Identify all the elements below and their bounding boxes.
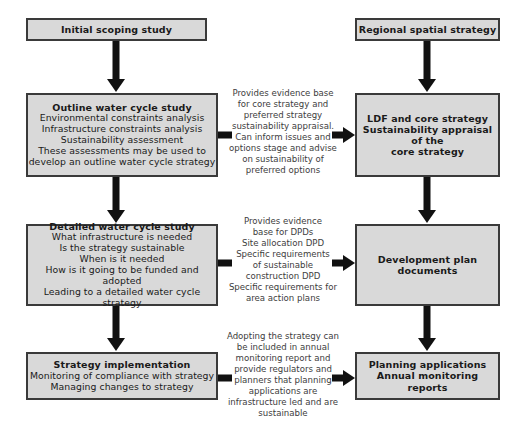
node-title: Strategy implementation: [54, 359, 191, 370]
note-line: area action plans: [226, 293, 340, 304]
note-line: monitoring report and: [222, 353, 344, 364]
node-title: Initial scoping study: [61, 24, 172, 35]
node-line: core strategy: [391, 146, 464, 157]
node-line: Leading to a detailed water cycle strate…: [28, 287, 216, 309]
note-line: be included in annual: [222, 342, 344, 353]
note-line: of sustainable: [226, 260, 340, 271]
note-line: for core strategy and: [226, 99, 340, 110]
node-ldf-and-core-strategy[interactable]: LDF and core strategy Sustainability app…: [355, 93, 500, 177]
note-line: sustainable: [222, 408, 344, 419]
node-title: Planning applications: [369, 359, 487, 370]
node-line: Annual monitoring reports: [357, 370, 498, 392]
node-title: Regional spatial strategy: [359, 24, 497, 35]
note-core-strategy: Provides evidence base for core strategy…: [226, 88, 340, 176]
note-line: Site allocation DPD: [226, 238, 340, 249]
note-line: infrastructure led and are: [222, 397, 344, 408]
node-initial-scoping-study[interactable]: Initial scoping study: [26, 18, 207, 41]
note-line: Provides evidence: [226, 216, 340, 227]
note-line: Adopting the strategy can: [222, 331, 344, 342]
flowchart-canvas: Initial scoping study Outline water cycl…: [0, 0, 526, 434]
node-detailed-water-cycle-study[interactable]: Detailed water cycle study What infrastr…: [26, 224, 218, 306]
node-planning-applications[interactable]: Planning applications Annual monitoring …: [355, 352, 500, 400]
note-line: construction DPD: [226, 271, 340, 282]
note-line: Can inform issues and: [226, 132, 340, 143]
note-line: applications are: [222, 386, 344, 397]
note-line: planners that planning: [222, 375, 344, 386]
note-line: on sustainability of: [226, 154, 340, 165]
note-monitoring: Adopting the strategy can be included in…: [222, 331, 344, 419]
note-line: preferred options: [226, 165, 340, 176]
note-line: Provides evidence base: [226, 88, 340, 99]
node-line: Monitoring of compliance with strategy: [30, 371, 214, 382]
note-line: preferred strategy: [226, 110, 340, 121]
node-strategy-implementation[interactable]: Strategy implementation Monitoring of co…: [26, 352, 218, 400]
note-line: provide regulators and: [222, 364, 344, 375]
note-line: base for DPDs: [226, 227, 340, 238]
note-dpds: Provides evidence base for DPDs Site all…: [226, 216, 340, 304]
node-development-plan-documents[interactable]: Development plan documents: [355, 224, 500, 306]
note-line: Specific requirements: [226, 249, 340, 260]
node-line: develop an outline water cycle strategy: [29, 157, 216, 168]
node-title: Development plan documents: [357, 254, 498, 276]
node-line: Sustainability appraisal of the: [357, 124, 498, 146]
note-line: Specific requirements for: [226, 282, 340, 293]
note-line: options stage and advise: [226, 143, 340, 154]
node-outline-water-cycle-study[interactable]: Outline water cycle study Environmental …: [26, 93, 218, 177]
note-line: sustainability appraisal.: [226, 121, 340, 132]
node-line: Managing changes to strategy: [50, 382, 193, 393]
node-line: How is it going to be funded and adopted: [28, 265, 216, 287]
node-title: LDF and core strategy: [367, 113, 488, 124]
node-regional-spatial-strategy[interactable]: Regional spatial strategy: [355, 18, 500, 41]
